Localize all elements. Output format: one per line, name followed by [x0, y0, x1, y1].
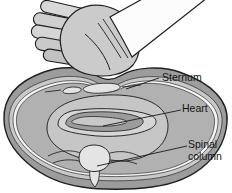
illustration-canvas — [0, 0, 232, 193]
sternum-label: Sternum — [162, 72, 202, 84]
hands-group — [30, 0, 207, 76]
spinal-column-label: Spinal column — [188, 139, 232, 162]
vertebra-body-shape — [79, 145, 110, 172]
cpr-compression-figure: Sternum Heart Spinal column — [0, 0, 232, 193]
heart-label: Heart — [182, 103, 208, 115]
heart-shape — [58, 109, 156, 137]
